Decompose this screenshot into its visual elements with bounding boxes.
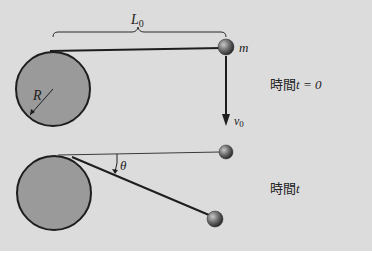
mass-label: m	[239, 40, 248, 55]
state-initial: L0 R m v0 時間t = 0	[16, 12, 322, 129]
mass-ball-initial	[218, 39, 234, 55]
angle-arc	[115, 154, 117, 172]
reference-line	[58, 152, 220, 155]
reference-ball	[219, 145, 233, 159]
radius-label: R	[32, 88, 42, 103]
caption-time-zero: 時間t = 0	[270, 77, 322, 92]
rope-initial	[50, 48, 222, 51]
mass-ball-later	[207, 211, 223, 227]
state-later: θ 時間t	[17, 145, 300, 230]
velocity-label: v0	[234, 114, 244, 129]
caption-time-t: 時間t	[270, 181, 300, 196]
cylinder-bottom	[17, 156, 91, 230]
velocity-arrowhead	[222, 114, 230, 126]
rope-cylinder-diagram: L0 R m v0 時間t = 0	[0, 0, 372, 259]
angle-label: θ	[120, 158, 127, 173]
length-label: L0	[130, 12, 144, 29]
rope-later	[72, 157, 209, 215]
